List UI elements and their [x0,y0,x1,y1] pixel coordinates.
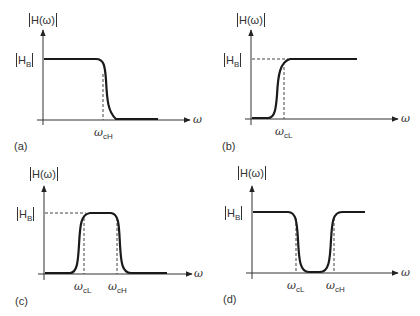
panel-c-cutoff-label-high: ωcH [108,281,127,295]
panel-d-x-label: ω [401,267,410,278]
panel-d-tag: (d) [223,294,236,305]
panel-a-tag: (a) [14,141,27,152]
cutoff-sub: cL [284,131,292,140]
omega-symbol: ω [108,280,117,293]
panel-d-cutoff-label-high: ωcH [326,280,345,294]
panel-d-y-label: H(ω) [237,166,267,180]
level-sub: B [235,213,240,222]
cutoff-sub: cH [117,286,127,295]
panel-a-y-label: H(ω) [28,13,58,27]
panel-b-level-label: HB [223,53,242,69]
response-curve [253,212,365,272]
cutoff-sub: cL [296,285,304,294]
panel-c-level-label: HB [16,207,35,223]
panel-c-x-label: ω [194,268,203,279]
panel-d-bandstop [246,186,398,279]
panel-a-cutoff-label: ωcH [94,127,113,141]
panel-b-y-label: H(ω) [236,13,266,27]
omega-symbol: ω [287,279,296,292]
panel-a-x-label: ω [193,114,202,125]
omega-symbol: ω [275,125,284,138]
omega-symbol: ω [94,126,103,139]
level-text: H [226,54,234,66]
response-curve [44,59,158,119]
level-sub: B [234,60,239,69]
cutoff-sub: cH [103,132,113,141]
panel-c-cutoff-label-low: ωcL [74,281,91,295]
omega-symbol: ω [326,279,335,292]
panel-d-cutoff-label-low: ωcL [287,280,304,294]
panel-b-highpass [245,30,398,125]
level-text: H [19,208,27,220]
y-label-text: H(ω) [32,168,56,180]
level-text: H [18,54,26,66]
panel-b-x-label: ω [401,113,410,124]
panel-c-bandpass [38,186,192,280]
panel-a-level-label: HB [15,53,34,69]
y-label-text: H(ω) [239,14,263,26]
response-curve [45,213,167,273]
panel-c-tag: (c) [15,296,28,307]
omega-symbol: ω [74,280,83,293]
response-curve [252,59,357,118]
panel-b-tag: (b) [222,141,235,152]
panel-c-y-label: H(ω) [29,167,59,181]
level-sub: B [26,60,31,69]
filter-response-diagram [0,0,420,316]
cutoff-sub: cH [335,285,345,294]
panel-d-level-label: HB [224,206,243,222]
y-label-text: H(ω) [240,167,264,179]
cutoff-sub: cL [83,286,91,295]
panel-b-cutoff-label: ωcL [275,126,292,140]
level-text: H [227,207,235,219]
level-sub: B [27,214,32,223]
y-label-text: H(ω) [31,14,55,26]
panel-a-lowpass [37,30,190,125]
